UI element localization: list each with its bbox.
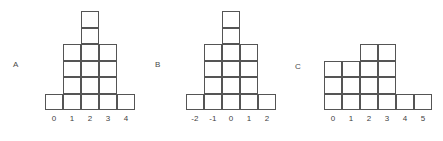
x-axis-tick-label: 1 (63, 115, 81, 123)
unit-block (360, 94, 378, 111)
unit-block (258, 94, 276, 111)
unit-block (342, 77, 360, 94)
unit-block (81, 28, 99, 45)
unit-block (222, 94, 240, 111)
unit-block (222, 61, 240, 78)
unit-block (63, 44, 81, 61)
unit-block (81, 61, 99, 78)
panel-letter-c: C (295, 63, 301, 71)
unit-block (81, 94, 99, 111)
unit-block (378, 77, 396, 94)
unit-block (342, 94, 360, 111)
panel-letter-b: B (155, 61, 161, 69)
unit-block (414, 94, 432, 111)
x-axis-tick-label: -1 (204, 115, 222, 123)
x-axis-tick-label: 4 (396, 115, 414, 123)
unit-block (81, 44, 99, 61)
unit-block (342, 61, 360, 78)
unit-block (360, 44, 378, 61)
unit-block (81, 77, 99, 94)
x-axis-tick-label: 0 (222, 115, 240, 123)
x-axis-tick-labels: 01234 (45, 115, 135, 123)
unit-block (222, 11, 240, 28)
x-axis-tick-label: 0 (324, 115, 342, 123)
x-axis-tick-label: 0 (45, 115, 63, 123)
unit-block (324, 61, 342, 78)
unit-block (222, 77, 240, 94)
unit-block (240, 94, 258, 111)
unit-block (99, 94, 117, 111)
x-axis-tick-labels: 012345 (324, 115, 432, 123)
x-axis-tick-label: 1 (240, 115, 258, 123)
unit-block (240, 61, 258, 78)
unit-block (99, 77, 117, 94)
unit-block (63, 94, 81, 111)
x-axis-tick-label: 3 (99, 115, 117, 123)
x-axis-tick-label: 4 (117, 115, 135, 123)
unit-block (204, 94, 222, 111)
x-axis-tick-label: -2 (186, 115, 204, 123)
unit-block (63, 77, 81, 94)
unit-block (204, 77, 222, 94)
unit-block (186, 94, 204, 111)
unit-block (240, 77, 258, 94)
unit-block (396, 94, 414, 111)
unit-block (222, 28, 240, 45)
unit-block (360, 77, 378, 94)
unit-block (378, 44, 396, 61)
unit-block (324, 77, 342, 94)
x-axis-tick-labels: -2-1012 (186, 115, 276, 123)
x-axis-tick-label: 2 (81, 115, 99, 123)
unit-block (204, 44, 222, 61)
x-axis-tick-label: 2 (258, 115, 276, 123)
unit-block (378, 94, 396, 111)
unit-block (378, 61, 396, 78)
x-axis-tick-label: 3 (378, 115, 396, 123)
unit-block (117, 94, 135, 111)
x-axis-tick-label: 2 (360, 115, 378, 123)
unit-block (81, 11, 99, 28)
histogram-figure: A01234B-2-1012C012345 (0, 0, 443, 141)
x-axis-tick-label: 5 (414, 115, 432, 123)
panel-letter-a: A (13, 61, 19, 69)
unit-block (45, 94, 63, 111)
unit-block (360, 61, 378, 78)
unit-block (204, 61, 222, 78)
unit-block (99, 61, 117, 78)
x-axis-tick-label: 1 (342, 115, 360, 123)
unit-block (240, 44, 258, 61)
unit-block (324, 94, 342, 111)
unit-block (222, 44, 240, 61)
unit-block (99, 44, 117, 61)
unit-block (63, 61, 81, 78)
